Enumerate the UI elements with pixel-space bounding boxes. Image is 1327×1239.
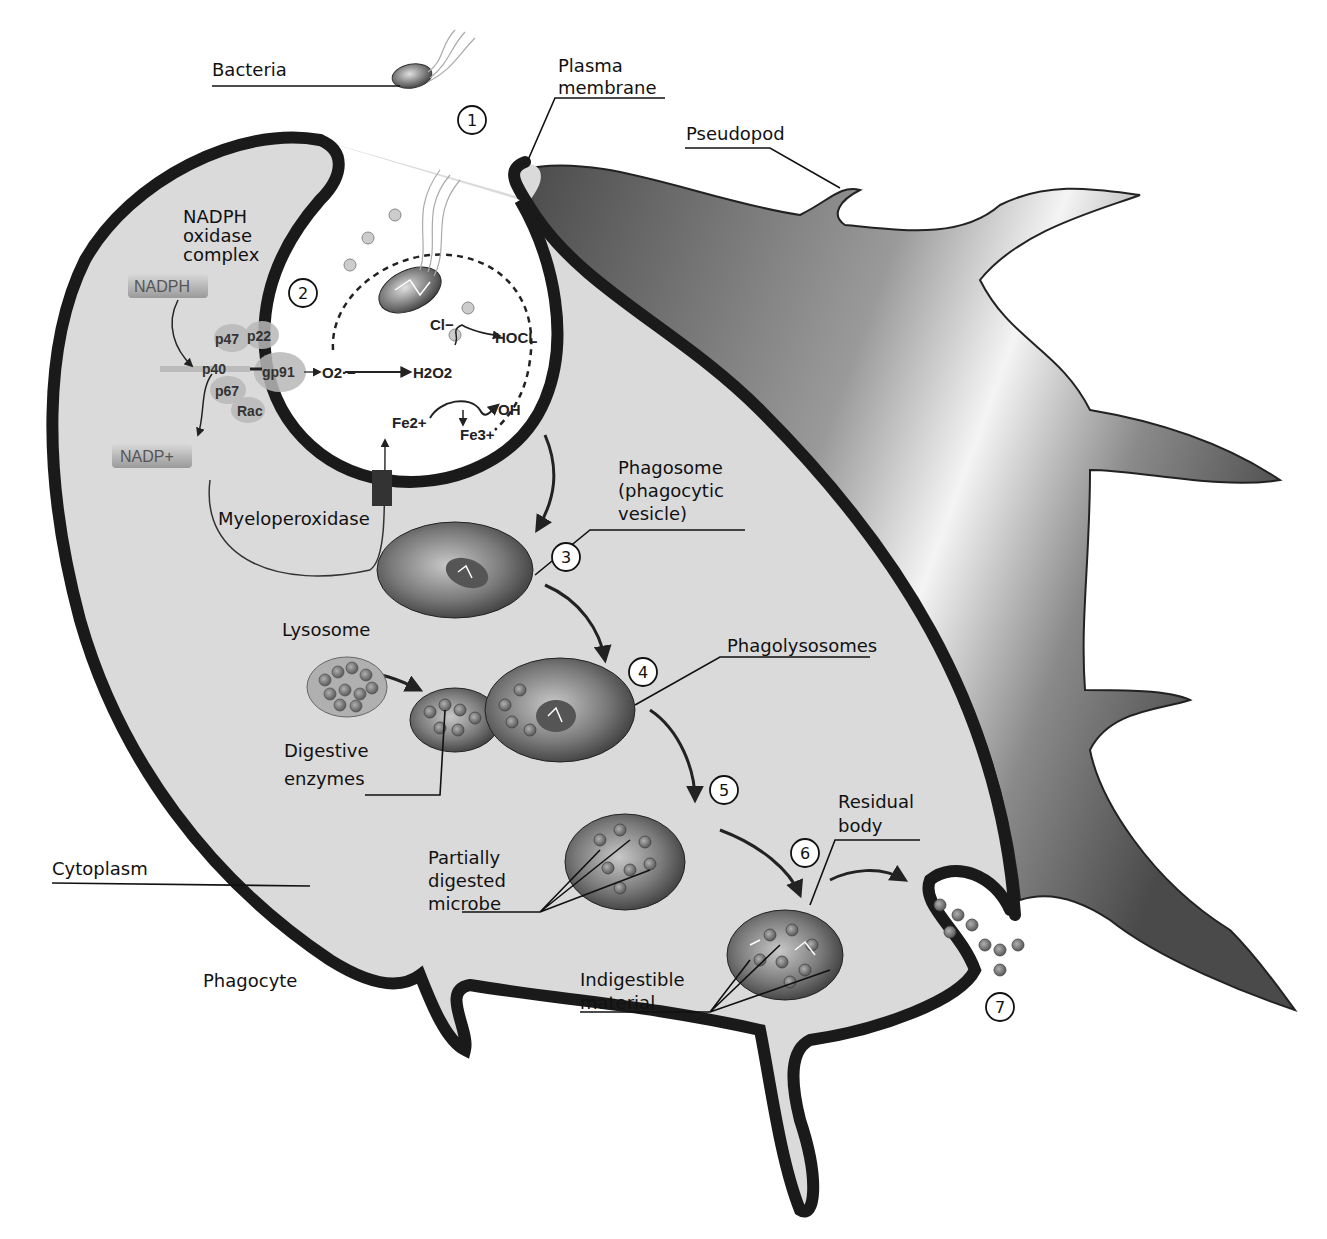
label-partially-3: microbe [428, 893, 501, 914]
label-phagocyte: Phagocyte [203, 970, 297, 991]
rac-text: Rac [237, 403, 263, 419]
hydroxyl-text: OH [498, 401, 521, 418]
label-plasma-membrane-1: Plasma [558, 55, 623, 76]
p22-text: p22 [247, 328, 271, 344]
p47-text: p47 [215, 331, 239, 347]
label-nadph-oxidase-3: complex [183, 244, 260, 265]
label-cytoplasm: Cytoplasm [52, 858, 148, 879]
label-nadph-oxidase-2: oxidase [183, 225, 252, 246]
step-7: 7 [995, 998, 1005, 1017]
label-partially-1: Partially [428, 847, 501, 868]
step-5: 5 [719, 781, 729, 800]
label-digestive-2: enzymes [284, 768, 365, 789]
label-phagosome-2: (phagocytic [618, 480, 724, 501]
nadph-text: NADPH [134, 278, 190, 295]
label-phagolysosomes: Phagolysosomes [727, 635, 877, 656]
label-indigestible-2: material [580, 992, 655, 1013]
step-1: 1 [467, 111, 477, 130]
chloride-text: Cl− [430, 316, 454, 333]
step-3: 3 [561, 548, 571, 567]
fe2-text: Fe2+ [392, 414, 427, 431]
gp91-text: gp91 [262, 364, 295, 380]
nadp-text: NADP+ [120, 448, 174, 465]
lysosome [307, 657, 387, 717]
label-phagosome-1: Phagosome [618, 457, 723, 478]
phagocytosis-diagram: 1 2 3 4 5 6 7 Bacteria Plasma membrane P… [0, 0, 1327, 1239]
label-lysosome: Lysosome [282, 619, 370, 640]
label-phagosome-3: vesicle) [618, 503, 687, 524]
label-myeloperoxidase: Myeloperoxidase [218, 508, 370, 529]
step-2: 2 [298, 284, 308, 303]
label-partially-2: digested [428, 870, 506, 891]
label-digestive-1: Digestive [284, 740, 369, 761]
label-residual-1: Residual [838, 791, 914, 812]
label-plasma-membrane-2: membrane [558, 77, 656, 98]
label-indigestible-1: Indigestible [580, 969, 685, 990]
p40-text: p40 [202, 361, 226, 377]
h2o2-text: H2O2 [413, 364, 452, 381]
superoxide-text: O2·− [322, 364, 356, 381]
step-6: 6 [800, 844, 810, 863]
p67-text: p67 [215, 383, 239, 399]
phagosome [377, 522, 533, 618]
hocl-text: HOCL [495, 329, 538, 346]
step-4: 4 [638, 663, 648, 682]
label-nadph-oxidase-1: NADPH [183, 206, 247, 227]
bacteria-free [390, 30, 475, 91]
label-residual-2: body [838, 815, 883, 836]
label-pseudopod: Pseudopod [686, 123, 785, 144]
label-bacteria: Bacteria [212, 59, 287, 80]
fe3-text: Fe3+ [460, 426, 495, 443]
myeloperoxidase-channel [372, 470, 392, 506]
